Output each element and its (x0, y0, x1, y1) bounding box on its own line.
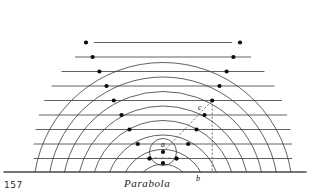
parabola-point-right-7 (225, 69, 229, 73)
focus-mark-2 (161, 161, 165, 165)
parabola-figure: abc (0, 0, 310, 193)
parabola-point-left-5 (112, 98, 116, 102)
parabola-point-left-6 (104, 84, 108, 88)
parabola-point-right-8 (231, 55, 235, 59)
parabola-point-left-2 (136, 142, 140, 146)
parabola-point-left-3 (127, 127, 131, 131)
parabola-point-left-4 (119, 113, 123, 117)
focus-mark-1 (161, 150, 165, 154)
label-a: a (161, 140, 165, 149)
arc-7 (65, 92, 262, 172)
parabola-point-right-3 (194, 127, 198, 131)
parabola-point-left-8 (91, 55, 95, 59)
focus-mark-3 (147, 156, 151, 160)
concentric-arcs-group (35, 62, 291, 172)
parabola-point-right-6 (217, 84, 221, 88)
parabola-point-right-4 (202, 113, 206, 117)
parabola-point-right-5 (210, 98, 214, 102)
parabola-point-right-9 (238, 40, 242, 44)
parabola-point-left-7 (97, 69, 101, 73)
focus-marks-group (147, 150, 178, 165)
arc-9 (35, 62, 291, 172)
focus-mark-4 (174, 156, 178, 160)
label-c: c (198, 103, 202, 112)
parabola-point-left-9 (84, 40, 88, 44)
label-b: b (196, 174, 200, 183)
parabola-point-right-2 (186, 142, 190, 146)
